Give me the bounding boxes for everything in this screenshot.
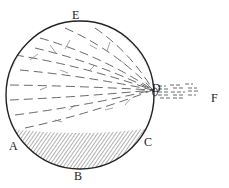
- label-e: E: [72, 9, 79, 21]
- sphere-diagram: [0, 0, 229, 188]
- label-f: F: [211, 92, 218, 104]
- scale-marks: [30, 40, 130, 122]
- label-a: A: [9, 140, 18, 152]
- label-b: B: [74, 170, 82, 182]
- label-c: C: [144, 136, 152, 148]
- label-d: D: [152, 82, 161, 94]
